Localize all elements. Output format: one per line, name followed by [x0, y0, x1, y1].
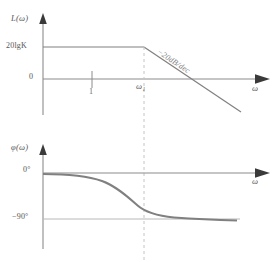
- phase-plot-canvas: [0, 131, 280, 262]
- magnitude-x-axis-label: ω: [252, 84, 258, 93]
- phase-x-axis-label: ω: [252, 177, 258, 186]
- magnitude-y-axis-arrow-icon: [39, 13, 47, 24]
- phase-y-axis-label: φ(ω): [11, 143, 28, 152]
- bode-plot-figure: L(ω) 20lgK 0 1 ω₁ ω −20dB/dec φ(ω) 0° −9…: [0, 0, 280, 262]
- phase-y-axis-arrow-icon: [39, 144, 47, 155]
- phase-response-curve: [43, 174, 237, 221]
- unit-frequency-tick-label: 1: [89, 88, 93, 96]
- magnitude-plot-canvas: [0, 0, 280, 131]
- phase-zero-degree-label: 0°: [23, 166, 31, 174]
- magnitude-zero-label: 0: [29, 73, 33, 81]
- corner-frequency-label: ω₁: [136, 82, 145, 91]
- gain-value-label: 20lgK: [6, 42, 27, 50]
- magnitude-y-axis-label: L(ω): [11, 14, 28, 23]
- phase-minus-ninety-label: −90°: [12, 213, 29, 221]
